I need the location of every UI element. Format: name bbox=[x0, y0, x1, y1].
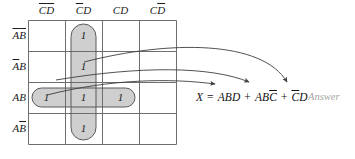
arrow-to-term-3-icon bbox=[84, 47, 287, 82]
arrow-to-term-2-icon bbox=[56, 70, 249, 82]
result-equation: X = ABD + ABC + CD bbox=[196, 91, 308, 103]
equation-plus-1: + bbox=[240, 91, 255, 103]
equation-term-1: ABD bbox=[218, 91, 241, 103]
equation-plus-2: + bbox=[277, 91, 292, 103]
answer-label: Answer bbox=[308, 91, 340, 102]
equation-equals: = bbox=[203, 91, 218, 103]
karnaugh-map-figure: CD CD CD CD AB AB AB AB 111111 X = ABD +… bbox=[0, 0, 355, 159]
arrow-layer bbox=[0, 0, 355, 159]
equation-term-3: CD bbox=[291, 91, 307, 103]
equation-term-2: ABC bbox=[255, 91, 277, 103]
arrow-to-term-1-icon bbox=[47, 81, 215, 95]
